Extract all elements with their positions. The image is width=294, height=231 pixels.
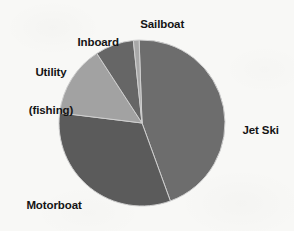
slice-label-utility: Utility (fishing): [12, 41, 90, 141]
slice-label-motorboat: Motorboat: [14, 186, 98, 224]
pie-chart-figure: Sailboat Inboard Utility (fishing) Jet S…: [0, 0, 294, 231]
slice-label-utility-line2: (fishing): [12, 104, 90, 117]
slice-label-sailboat: Sailboat: [119, 5, 193, 43]
slice-label-utility-line1: Utility: [12, 66, 90, 79]
slice-label-jet-ski-text: Jet Ski: [242, 124, 278, 136]
slice-label-jet-ski: Jet Ski: [230, 111, 290, 149]
slice-label-sailboat-text: Sailboat: [140, 18, 184, 30]
slice-label-motorboat-text: Motorboat: [26, 199, 81, 211]
